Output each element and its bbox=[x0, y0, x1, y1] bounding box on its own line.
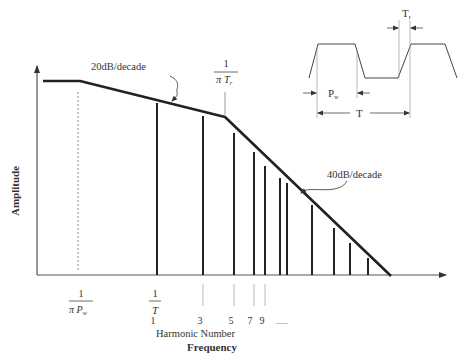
svg-text:9: 9 bbox=[260, 315, 265, 326]
slope-20db-label: 20dB/decade bbox=[91, 61, 146, 72]
svg-text:......: ...... bbox=[276, 317, 288, 326]
tr-corner-label: 1 π Tr bbox=[214, 58, 238, 86]
svg-text:1: 1 bbox=[79, 288, 84, 299]
svg-text:3: 3 bbox=[198, 315, 203, 326]
pw-label: Pw bbox=[328, 87, 339, 100]
harmonic-number-title: Harmonic Number bbox=[156, 328, 236, 339]
pw-corner-label: 1 π Pw bbox=[69, 288, 93, 316]
axes bbox=[37, 66, 446, 275]
slope-40db-label: 40dB/decade bbox=[327, 169, 382, 180]
harmonic-ticks bbox=[203, 284, 265, 306]
svg-text:7: 7 bbox=[248, 315, 253, 326]
waveform bbox=[309, 44, 457, 78]
fundamental-label: 1 T bbox=[149, 288, 161, 316]
trapezoid-waveform-inset: Tr Pw T bbox=[303, 7, 457, 119]
spectrum-diagram: 20dB/decade 1 π Tr 40dB/decade Amplitude… bbox=[0, 0, 471, 362]
svg-text:5: 5 bbox=[229, 315, 234, 326]
slope-20db-pointer bbox=[170, 76, 178, 101]
svg-text:π Pw: π Pw bbox=[69, 304, 87, 316]
y-axis-label: Amplitude bbox=[9, 166, 21, 216]
tr-label: Tr bbox=[402, 7, 412, 20]
svg-text:1: 1 bbox=[151, 315, 156, 326]
x-axis-label: Frequency bbox=[187, 341, 237, 353]
period-label: T bbox=[356, 107, 363, 119]
svg-text:π Tr: π Tr bbox=[216, 74, 233, 86]
svg-text:1: 1 bbox=[223, 58, 228, 69]
harmonic-numbers: 1 3 5 7 9 ...... bbox=[151, 315, 289, 326]
svg-text:1: 1 bbox=[152, 288, 157, 299]
slope-40db-pointer bbox=[301, 181, 347, 193]
